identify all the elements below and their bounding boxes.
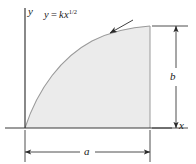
y-axis-label: y (28, 6, 33, 17)
diagram-canvas (0, 0, 196, 164)
equation-operator: = (49, 9, 59, 20)
dimension-label-b: b (170, 71, 176, 82)
curve-equation-label: y=kx1/2 (44, 10, 77, 21)
figure-container: y x b a y=kx1/2 (0, 0, 196, 164)
dimension-label-a: a (84, 146, 90, 157)
shaded-region (25, 26, 150, 128)
equation-exponent: 1/2 (69, 8, 77, 15)
x-axis-label: x (179, 120, 184, 131)
